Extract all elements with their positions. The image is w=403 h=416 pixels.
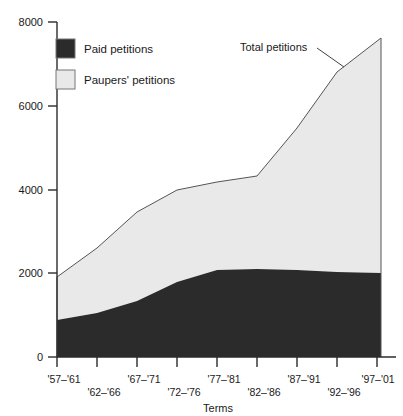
x-tick-label-4: '72–'76 xyxy=(167,386,200,398)
chart-legend: Paid petitions Paupers' petitions xyxy=(56,39,175,89)
legend-label-paid: Paid petitions xyxy=(84,43,153,55)
chart-canvas: 8000 6000 4000 2000 0 '57–'61 '62–'66 '6… xyxy=(0,0,403,416)
y-tick-label-8000: 8000 xyxy=(19,16,43,28)
y-tick-label-2000: 2000 xyxy=(19,267,43,279)
x-tick-label-8: '92–'96 xyxy=(327,386,360,398)
legend-swatch-paupers xyxy=(56,70,75,89)
x-tick-label-6: '82–'86 xyxy=(247,386,280,398)
x-axis-ticks xyxy=(57,357,377,367)
legend-swatch-paid xyxy=(56,39,75,58)
y-tick-label-4000: 4000 xyxy=(19,184,43,196)
y-tick-label-0: 0 xyxy=(37,351,43,363)
stacked-area-chart: 8000 6000 4000 2000 0 '57–'61 '62–'66 '6… xyxy=(0,0,403,416)
x-tick-label-1: '57–'61 xyxy=(47,373,80,385)
annotation-total-petitions-label: Total petitions xyxy=(240,41,308,53)
x-tick-label-2: '62–'66 xyxy=(87,386,120,398)
x-tick-label-3: '67–'71 xyxy=(127,373,160,385)
x-axis-tick-labels: '57–'61 '62–'66 '67–'71 '72–'76 '77–'81 … xyxy=(47,373,394,398)
x-axis-title: Terms xyxy=(203,402,233,414)
annotation-total-petitions: Total petitions xyxy=(240,41,344,67)
x-tick-label-5: '77–'81 xyxy=(207,373,240,385)
x-tick-label-7: '87–'91 xyxy=(287,373,320,385)
x-tick-label-9: '97–'01 xyxy=(361,373,394,385)
y-axis-tick-labels: 8000 6000 4000 2000 0 xyxy=(19,16,43,363)
annotation-leader-line xyxy=(317,48,344,67)
legend-label-paupers: Paupers' petitions xyxy=(84,74,175,86)
y-tick-label-6000: 6000 xyxy=(19,100,43,112)
